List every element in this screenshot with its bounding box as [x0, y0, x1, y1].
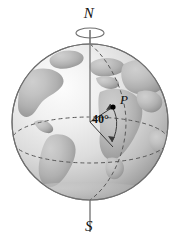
- point-p-label: P: [120, 93, 128, 106]
- angle-label: 40°: [92, 113, 109, 125]
- globe-diagram: [0, 0, 178, 240]
- figure-root: N S P 40°: [0, 0, 178, 240]
- north-pole-label: N: [0, 6, 178, 21]
- point-p-marker: [110, 104, 115, 109]
- landmass-antarctic-rim: [14, 182, 168, 206]
- south-pole-label: S: [0, 219, 178, 234]
